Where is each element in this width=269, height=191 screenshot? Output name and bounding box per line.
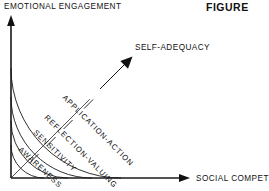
diagonal-axis-label: SELF-ADEQUACY: [135, 43, 210, 52]
figure-caption: FIGURE: [206, 1, 249, 13]
x-axis-arrow-head: [179, 174, 190, 182]
self-adequacy-arrow: [100, 57, 133, 90]
figure-container: FIGURE EMOTIONAL ENGAGEMENT SOCIAL COMPE…: [0, 0, 269, 191]
y-axis-label: EMOTIONAL ENGAGEMENT: [4, 2, 121, 11]
y-axis: [7, 15, 15, 178]
self-adequacy-arrow-shaft: [100, 64, 125, 89]
y-axis-arrow-head: [7, 15, 15, 26]
band-label-application-action-text: APPLICATION-ACTION: [61, 93, 136, 168]
concentric-arc-diagram: FIGURE EMOTIONAL ENGAGEMENT SOCIAL COMPE…: [0, 0, 269, 191]
x-axis-label: SOCIAL COMPETENCY: [196, 174, 269, 183]
band-label-application-action: APPLICATION-ACTION: [61, 93, 136, 168]
